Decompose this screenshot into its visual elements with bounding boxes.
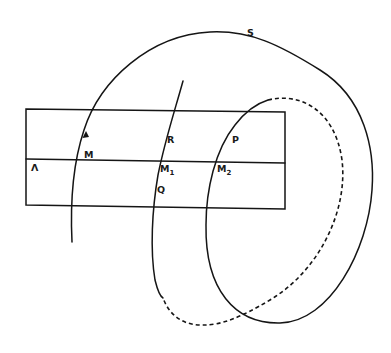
label-m2: M2 bbox=[217, 163, 231, 177]
label-m1-sub: 1 bbox=[169, 169, 174, 177]
label-s: S bbox=[247, 27, 254, 38]
label-m2-base: M bbox=[217, 163, 226, 174]
curve-dashed-hidden bbox=[163, 98, 343, 325]
diagram-canvas: S Λ M M1 M2 R P Q bbox=[0, 0, 391, 353]
label-m: M bbox=[84, 149, 93, 160]
label-q: Q bbox=[157, 184, 165, 195]
label-lambda: Λ bbox=[31, 162, 39, 173]
label-p: P bbox=[232, 134, 239, 145]
label-m2-sub: 2 bbox=[226, 169, 231, 177]
label-r: R bbox=[167, 134, 175, 145]
label-m1-base: M bbox=[160, 163, 169, 174]
curve-s-outer bbox=[72, 32, 373, 323]
label-m1: M1 bbox=[160, 163, 174, 177]
lambda-line bbox=[26, 159, 285, 163]
